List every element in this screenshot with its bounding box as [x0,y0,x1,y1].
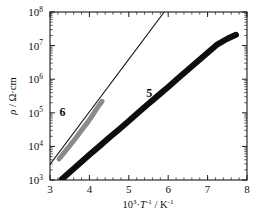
x-title-base: 10 [123,199,134,210]
figure-container: 345678103104105106107108 56 103·T-1 / K-… [0,0,258,218]
y-tick-label: 104 [28,139,43,153]
y-tick-label: 107 [28,38,43,52]
arrhenius-plot: 345678103104105106107108 56 103·T-1 / K-… [0,0,258,218]
series-annotation-label: 5 [146,86,152,100]
x-axis-title: 103·T-1 / K-1 [123,198,174,210]
y-axis-title: ρ / Ω·cm [7,77,18,115]
x-tick-label: 3 [47,183,53,195]
x-title-unit-exponent: -1 [168,198,174,206]
series-annotation-label: 6 [60,105,66,119]
x-tick-label: 8 [244,183,250,195]
svg-text:ρ / Ω·cm: ρ / Ω·cm [7,77,18,115]
y-title-unit: Ω·cm [7,77,18,101]
y-tick-label: 106 [28,72,43,86]
x-tick-label: 7 [205,183,211,195]
x-tick-label: 6 [165,183,171,195]
svg-text:103·T-1 / K-1: 103·T-1 / K-1 [123,198,174,210]
y-tick-label: 108 [28,5,43,19]
y-tick-label: 103 [28,173,43,187]
y-title-separator: / [7,101,18,109]
y-tick-label: 105 [28,105,43,119]
x-title-separator: / K [152,199,168,210]
x-tick-label: 4 [87,183,93,195]
x-tick-label: 5 [126,183,132,195]
